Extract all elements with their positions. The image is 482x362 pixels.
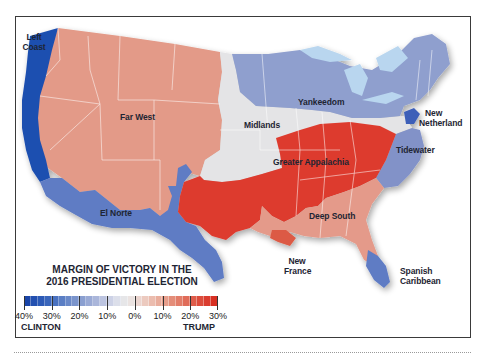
- region-spanish-caribbean: [366, 250, 390, 288]
- label-spanish-caribbean-line1: Spanish: [400, 266, 432, 276]
- legend-tick: [190, 296, 191, 310]
- legend-title-line2: 2016 PRESIDENTIAL ELECTION: [46, 276, 198, 287]
- label-tidewater: Tidewater: [396, 145, 435, 155]
- dotted-divider: [14, 352, 471, 353]
- label-left-coast: LeftCoast: [20, 32, 48, 52]
- label-spanish-caribbean-line2: Caribbean: [400, 276, 441, 286]
- label-new-netherland: NewNetherland: [419, 108, 462, 128]
- legend-scale-label: 20%: [70, 311, 88, 321]
- label-midlands: Midlands: [244, 120, 280, 130]
- label-new-france: NewFrance: [284, 256, 310, 276]
- legend-tick: [24, 296, 25, 310]
- region-new-netherland: [404, 108, 420, 124]
- legend-scale-label: 10%: [154, 311, 172, 321]
- legend-title-line1: MARGIN OF VICTORY IN THE: [52, 264, 191, 275]
- legend-title: MARGIN OF VICTORY IN THE2016 PRESIDENTIA…: [22, 264, 222, 287]
- legend-scale-label: 20%: [181, 311, 199, 321]
- legend-scale-label: 40%: [15, 311, 33, 321]
- legend-scale-label: 30%: [43, 311, 61, 321]
- legend-scale-label: 10%: [98, 311, 116, 321]
- label-new-netherland-line1: New: [419, 108, 442, 118]
- legend-scale-label: 30%: [209, 311, 227, 321]
- legend-tick: [52, 296, 53, 310]
- legend-tick: [217, 296, 218, 310]
- label-new-france-line1: New: [288, 256, 305, 266]
- legend-clinton-label: CLINTON: [21, 322, 61, 332]
- label-el-norte: El Norte: [100, 208, 132, 218]
- legend-tick: [79, 296, 80, 310]
- legend-tick: [107, 296, 108, 310]
- label-new-france-line2: France: [284, 266, 311, 276]
- label-spanish-caribbean: SpanishCaribbean: [400, 266, 441, 286]
- label-left-coast-line2: Coast: [22, 42, 45, 52]
- legend-scale-label: 0%: [128, 311, 141, 321]
- legend-trump-label: TRUMP: [183, 322, 215, 332]
- label-left-coast-line1: Left: [26, 32, 41, 42]
- label-deep-south: Deep South: [309, 211, 355, 221]
- legend-tick: [163, 296, 164, 310]
- legend-tick: [135, 296, 136, 310]
- label-greater-appalachia: Greater Appalachia: [273, 157, 349, 167]
- label-new-netherland-line2: Netherland: [419, 118, 462, 128]
- label-yankeedom: Yankeedom: [298, 97, 344, 107]
- legend-ticks: [24, 296, 218, 310]
- label-far-west: Far West: [120, 112, 155, 122]
